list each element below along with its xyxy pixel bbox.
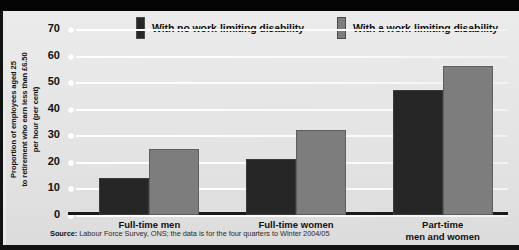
source-prefix: Source: [50, 229, 77, 238]
y-axis-title-line-3: per hour (per cent) [30, 30, 41, 210]
y-axis-tick-label: 10 [48, 181, 60, 193]
title-band [0, 0, 519, 11]
chart-frame: With no work-limiting disability With a … [0, 11, 519, 250]
y-axis-tick-label: 20 [48, 155, 60, 167]
y-axis-tick-label: 60 [48, 49, 60, 61]
y-axis-tick-label: 50 [48, 75, 60, 87]
y-axis-title: Proportion of employees aged 25 to retir… [8, 30, 41, 210]
y-axis-title-line-1: Proportion of employees aged 25 [8, 30, 19, 210]
chart-figure: With no work-limiting disability With a … [0, 0, 519, 250]
bar-group: Full-time women [246, 29, 346, 215]
y-axis-title-line-2: to retirement who earn less than £6.50 [19, 30, 30, 210]
bar [296, 130, 346, 215]
plot-area: 706050403020100 Full-time menFull-time w… [68, 29, 508, 215]
y-axis-tick-label: 70 [48, 22, 60, 34]
bar-group: Full-time men [99, 29, 199, 215]
gridline [76, 215, 508, 217]
source-text: Labour Force Survey, ONS; the data is fo… [77, 229, 329, 238]
bar-groups: Full-time menFull-time womenPart-time me… [68, 29, 508, 215]
bar [443, 66, 493, 215]
bar [99, 178, 149, 215]
y-axis-tick-label: 30 [48, 128, 60, 140]
source-note: Source: Labour Force Survey, ONS; the da… [50, 229, 329, 238]
bar-group: Part-time men and women [393, 29, 493, 215]
bar [149, 149, 199, 215]
bar [393, 90, 443, 215]
y-axis-tick-label: 0 [54, 208, 60, 220]
chart-panel: With no work-limiting disability With a … [6, 11, 519, 245]
x-axis-category-label: Part-time men and women [393, 219, 493, 243]
bar [246, 159, 296, 215]
y-axis-tick-label: 40 [48, 102, 60, 114]
